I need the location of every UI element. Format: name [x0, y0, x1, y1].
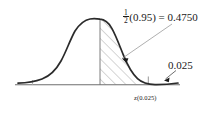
area-expression-text: (0.95) = 0.4750: [129, 11, 198, 23]
area-label-leader-line: [122, 24, 172, 59]
right-tail-area-label: 0.025: [168, 60, 193, 71]
shaded-area-label: 1 2 (0.95) = 0.4750: [123, 9, 198, 26]
z-critical-value-label: z(0.025): [134, 95, 157, 102]
fraction-denominator: 2: [123, 17, 129, 25]
normal-distribution-figure: 1 2 (0.95) = 0.4750 0.025 z(0.025): [0, 0, 212, 115]
tail-label-leader-line: [166, 71, 177, 80]
one-half-fraction: 1 2: [123, 9, 129, 26]
shaded-region-hatch: [98, 16, 152, 86]
bell-curve-path: [18, 19, 178, 85]
